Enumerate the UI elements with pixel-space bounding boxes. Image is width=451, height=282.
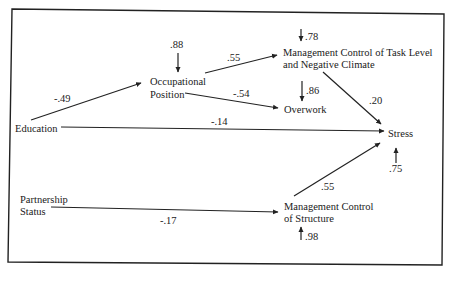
- coef-mgmtstructure-stress: .55: [321, 181, 334, 192]
- residual-mgmtstructure: .98: [305, 231, 318, 242]
- node-occupational-line2: Position: [150, 89, 185, 100]
- residual-stress: .75: [389, 163, 402, 174]
- node-mgmtstructure-line1: Management Control: [284, 201, 374, 212]
- node-overwork: Overwork: [284, 104, 327, 115]
- edge-occupational-overwork: [185, 93, 278, 108]
- residual-occupational: .88: [170, 39, 183, 50]
- coef-partnership-mgmtstructure: -.17: [160, 215, 177, 226]
- node-stress: Stress: [388, 128, 413, 139]
- residual-overwork: .86: [306, 85, 319, 96]
- coef-occupational-overwork: -.54: [233, 88, 250, 99]
- coef-occupational-mgmttask: .55: [227, 52, 240, 63]
- node-partnership-line1: Partnership: [20, 194, 68, 205]
- node-mgmttask-line1: Management Control of Task Level: [283, 47, 433, 58]
- edge-education-stress: [61, 127, 384, 131]
- edge-occupational-mgmttask: [205, 55, 277, 73]
- node-mgmtstructure-line2: of Structure: [284, 213, 334, 224]
- edge-mgmtstructure-stress: [294, 143, 380, 196]
- node-mgmttask-line2: and Negative Climate: [283, 59, 375, 70]
- path-diagram: Education Occupational Position Manageme…: [0, 0, 451, 282]
- coef-mgmttask-stress: .20: [369, 95, 382, 106]
- node-partnership-line2: Status: [20, 206, 46, 217]
- node-occupational-line1: Occupational: [150, 76, 206, 87]
- residual-mgmttask: .78: [305, 31, 318, 42]
- edge-partnership-mgmtstructure: [51, 207, 278, 212]
- coef-education-stress: -.14: [211, 116, 228, 127]
- edge-education-occupational: [31, 83, 141, 120]
- coef-education-occupational: -.49: [54, 93, 71, 104]
- node-education: Education: [15, 123, 58, 134]
